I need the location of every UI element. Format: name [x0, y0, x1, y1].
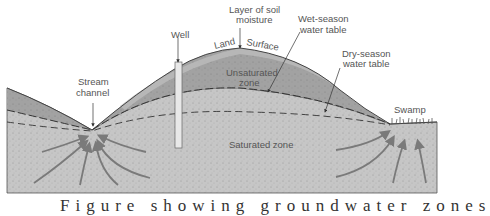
wet-season-label: Wet-season: [298, 13, 349, 24]
saturated-label: Saturated zone: [229, 139, 293, 150]
dry-season-label-2: water table: [342, 58, 389, 69]
stream-label: Stream: [78, 76, 109, 87]
figure-caption: Figure showing groundwater zones: [60, 196, 490, 216]
well: [175, 62, 182, 148]
swamp-label: Swamp: [394, 104, 426, 115]
wet-season-label-2: water table: [299, 24, 346, 35]
soil-moisture-label-2: moisture: [236, 14, 272, 25]
unsaturated-label-2: zone: [239, 77, 260, 88]
stream-label-2: channel: [76, 87, 109, 98]
well-label: Well: [171, 29, 189, 40]
